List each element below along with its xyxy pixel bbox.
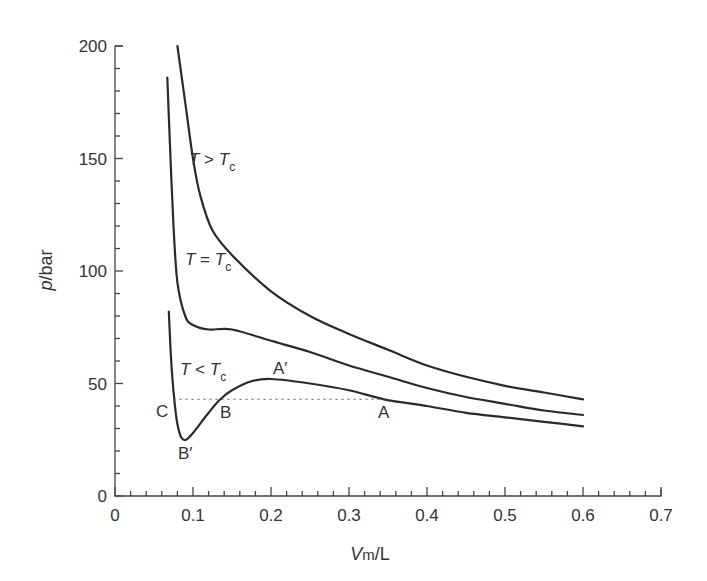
- label-t-less-tc: T < Tc: [180, 360, 226, 384]
- isotherm-above-critical: [177, 46, 583, 399]
- label-a: A: [378, 403, 390, 422]
- y-axis-title: p/bar: [36, 249, 56, 291]
- x-tick-label: 0.7: [649, 506, 673, 525]
- isotherm-curves: [167, 46, 583, 440]
- label-b-prime: B′: [178, 444, 193, 463]
- x-tick-label: 0.4: [415, 506, 439, 525]
- label-a-prime: A′: [273, 359, 288, 378]
- x-tick-label: 0: [110, 506, 119, 525]
- x-tick-label: 0.2: [259, 506, 283, 525]
- y-tick-label: 0: [98, 487, 107, 506]
- pv-isotherm-chart: 05010015020000.10.20.30.40.50.60.7 p/bar…: [0, 0, 707, 581]
- y-tick-label: 150: [79, 150, 107, 169]
- y-tick-label: 100: [79, 262, 107, 281]
- x-tick-label: 0.5: [493, 506, 517, 525]
- label-b: B: [220, 403, 231, 422]
- x-tick-label: 0.1: [181, 506, 205, 525]
- isotherm-critical: [167, 78, 583, 416]
- y-tick-label: 200: [79, 37, 107, 56]
- label-t-equal-tc: T = Tc: [185, 250, 231, 274]
- label-c: C: [156, 402, 168, 421]
- x-axis-title: Vm/L: [350, 544, 390, 564]
- x-tick-label: 0.6: [571, 506, 595, 525]
- y-tick-label: 50: [88, 375, 107, 394]
- x-tick-label: 0.3: [337, 506, 361, 525]
